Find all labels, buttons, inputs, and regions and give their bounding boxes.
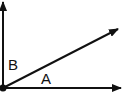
angle-a-label: A xyxy=(41,70,51,87)
diagonal-ray xyxy=(3,29,118,88)
angle-diagram: B A xyxy=(0,0,134,98)
angle-b-label: B xyxy=(8,56,18,73)
vertex-point xyxy=(0,85,7,92)
